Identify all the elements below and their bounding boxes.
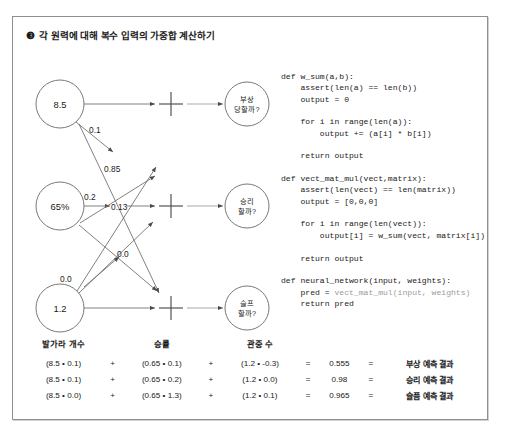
table-row: (8.5 • 0.1) + (0.65 • 0.2) + (1.2 • 0.0)…	[27, 371, 477, 387]
code-line: return output	[281, 151, 364, 160]
cell-equals1: =	[296, 371, 319, 387]
code-line: pred = vect_mat_mul(input, weights)	[281, 288, 470, 297]
cell-equals2: =	[359, 371, 382, 387]
code-line: output += (a[i] * b[i])	[281, 129, 432, 138]
cell-term1: (8.5 • 0.1)	[27, 355, 100, 371]
column-header-fans: 관중 수	[224, 337, 297, 355]
cell-equals1: =	[296, 355, 319, 371]
code-line: .	[281, 265, 286, 274]
header-spacer-5	[359, 337, 382, 355]
code-line: return output	[281, 254, 364, 263]
page-title-text: 각 원력에 대해 복수 입력의 가중합 계산하기	[39, 30, 215, 41]
code-line: output = 0	[281, 95, 349, 104]
header-spacer-6	[382, 337, 477, 355]
cell-value: 0.555	[320, 355, 359, 371]
cell-term3: (1.2 • 0.1)	[224, 387, 297, 403]
input-node-2-label: 65%	[51, 201, 70, 212]
cell-result-label: 부상 예측 결과	[382, 355, 477, 371]
sum-symbol-group	[159, 92, 183, 320]
table-row: (8.5 • 0.1) + (0.65 • 0.1) + (1.2 • -0.3…	[27, 355, 477, 371]
header-spacer-1	[100, 337, 125, 355]
weight-label-6: 0.0	[60, 274, 72, 284]
edge-group-output	[187, 104, 223, 308]
step-number-badge: ❸	[26, 30, 35, 41]
cell-equals2: =	[359, 355, 382, 371]
cell-term2: (0.65 • 0.2)	[125, 371, 198, 387]
header-spacer-4	[320, 337, 359, 355]
header-spacer-2	[198, 337, 223, 355]
code-line: output[i] = w_sum(vect, matrix[i])	[281, 231, 485, 240]
code-line: assert(len(a) == len(b))	[281, 83, 417, 92]
cell-term2: (0.65 • 1.3)	[125, 387, 198, 403]
code-line: def w_sum(a,b):	[281, 72, 354, 81]
code-line: def vect_mat_mul(vect,matrix):	[281, 174, 427, 183]
cell-equals1: =	[296, 387, 319, 403]
cell-term3: (1.2 • -0.3)	[224, 355, 297, 371]
input-node-1-label: 8.5	[53, 99, 66, 110]
code-block: def w_sum(a,b): assert(len(a) == len(b))…	[281, 71, 497, 309]
output-node-3-label-line1: 슬프	[240, 299, 254, 308]
cell-result-label: 승리 예측 결과	[382, 371, 477, 387]
header-spacer-3	[296, 337, 319, 355]
code-line: output = [0,0,0]	[281, 197, 378, 206]
page-title: ❸ 각 원력에 대해 복수 입력의 가중합 계산하기	[26, 28, 215, 42]
column-header-toes: 발가라 개수	[27, 337, 100, 355]
cell-term2: (0.65 • 0.1)	[125, 355, 198, 371]
code-line: .	[281, 106, 286, 115]
output-node-2-label-line2: 할까?	[238, 207, 256, 216]
cell-value: 0.965	[320, 387, 359, 403]
cell-equals2: =	[359, 387, 382, 403]
calculation-table-wrapper: 발가라 개수 승률 관중 수 (8.5 • 0.1) + (0.65 • 0.1…	[27, 337, 477, 404]
cell-term3: (1.2 • 0.0)	[224, 371, 297, 387]
cell-operator1: +	[100, 355, 125, 371]
cell-operator2: +	[198, 371, 223, 387]
calculation-table: 발가라 개수 승률 관중 수 (8.5 • 0.1) + (0.65 • 0.1…	[27, 337, 477, 404]
output-node-3-label-line2: 할까?	[238, 309, 256, 318]
figure-panel: ❸ 각 원력에 대해 복수 입력의 가중합 계산하기	[12, 16, 488, 420]
cell-operator1: +	[100, 387, 125, 403]
input-node-group: 8.5 65% 1.2	[36, 80, 84, 332]
output-node-group: 부상 당할까? 승리 할까? 슬프 할까?	[225, 82, 269, 330]
output-node-1-label-line1: 부상	[240, 95, 254, 104]
cell-operator2: +	[198, 355, 223, 371]
neural-network-diagram: 8.5 65% 1.2 부상 당할까? 승리	[27, 79, 272, 334]
output-node-1-label-line2: 당할까?	[234, 105, 259, 114]
code-line: for i in range(len(vect)):	[281, 219, 427, 228]
cell-result-label: 슬픔 예측 결과	[382, 387, 477, 403]
code-line: .	[281, 242, 286, 251]
weight-label-1: 0.1	[89, 125, 101, 135]
cell-operator1: +	[100, 371, 125, 387]
table-row: (8.5 • 0.0) + (0.65 • 1.3) + (1.2 • 0.1)…	[27, 387, 477, 403]
cell-term1: (8.5 • 0.0)	[27, 387, 100, 403]
output-node-2-label-line1: 승리	[240, 197, 254, 206]
code-line: .	[281, 140, 286, 149]
code-line: def neural_network(input, weights):	[281, 276, 451, 285]
code-line-prefix: pred =	[281, 288, 334, 297]
code-line: .	[281, 163, 286, 172]
code-line: assert(len(vect) == len(matrix))	[281, 185, 456, 194]
code-line: return pred	[281, 299, 354, 308]
table-header-row: 발가라 개수 승률 관중 수	[27, 337, 477, 355]
input-node-3-label: 1.2	[53, 303, 66, 314]
weight-label-2: 0.85	[104, 164, 121, 174]
code-call-expression: vect_mat_mul(input, weights)	[334, 288, 470, 297]
weight-label-4: 0.13	[111, 202, 128, 212]
cell-term1: (8.5 • 0.1)	[27, 371, 100, 387]
cell-operator2: +	[198, 387, 223, 403]
code-line: .	[281, 208, 286, 217]
column-header-winrate: 승률	[125, 337, 198, 355]
edge-in3-sum1	[77, 167, 156, 291]
weight-label-5: 0.0	[117, 249, 129, 259]
weight-label-3: 0.2	[84, 192, 96, 202]
cell-value: 0.98	[320, 371, 359, 387]
code-line: for i in range(len(a)):	[281, 117, 412, 126]
